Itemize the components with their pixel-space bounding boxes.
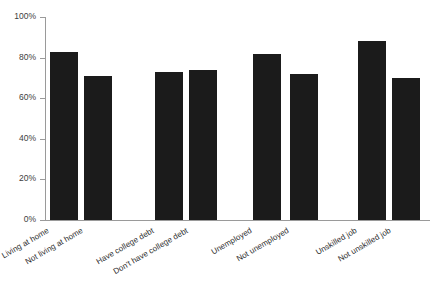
bar — [290, 74, 318, 220]
y-axis-tick — [40, 98, 45, 99]
bar — [358, 41, 386, 220]
bar — [155, 72, 183, 220]
bar — [50, 52, 78, 220]
y-axis-tick-label: 80% — [0, 52, 36, 62]
y-axis-tick — [40, 17, 45, 18]
y-axis-tick — [40, 220, 45, 221]
bar — [253, 54, 281, 220]
y-axis-tick-label: 40% — [0, 133, 36, 143]
y-axis-tick-label: 100% — [0, 11, 36, 21]
x-axis-line — [45, 220, 430, 221]
y-axis-tick — [40, 179, 45, 180]
bar — [189, 70, 217, 220]
bar-chart: 100%80%60%40%20%0% Living at homeNot liv… — [0, 0, 433, 295]
y-axis-line — [45, 17, 46, 221]
y-axis-tick-label: 60% — [0, 92, 36, 102]
y-axis-tick-label: 0% — [0, 214, 36, 224]
bar — [84, 76, 112, 220]
y-axis-tick — [40, 58, 45, 59]
y-axis-tick — [40, 139, 45, 140]
bar — [392, 78, 420, 220]
y-axis-tick-label: 20% — [0, 173, 36, 183]
